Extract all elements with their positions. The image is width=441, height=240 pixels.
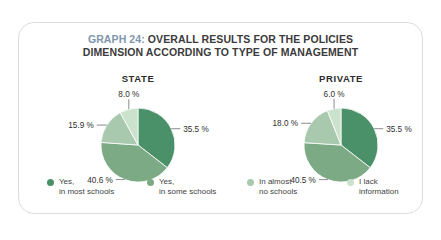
legend-item-label: In almost no schools	[259, 177, 297, 197]
legend-item-label: Yes, in some schools	[159, 177, 216, 197]
pie-slice-label: 18.0 %	[273, 119, 299, 128]
legend-item[interactable]: Yes, in some schools	[147, 177, 216, 197]
legend-color-dot-icon	[347, 179, 354, 186]
legend-item-label: Yes, in most schools	[59, 177, 114, 197]
legend-color-dot-icon	[147, 179, 154, 186]
legend-item[interactable]: In almost no schools	[247, 177, 297, 197]
legend-item[interactable]: I lack information	[347, 177, 399, 197]
pie-slice-label: 15.9 %	[68, 121, 94, 130]
pie-slice-label: 6.0 %	[324, 90, 345, 99]
title-line-2: DIMENSION ACCORDING TO TYPE OF MANAGEMEN…	[83, 46, 358, 58]
chart-title-private: PRIVATE	[240, 73, 441, 84]
graph-number: GRAPH 24:	[88, 33, 145, 45]
chart-title-state: STATE	[37, 73, 239, 84]
legend-color-dot-icon	[247, 179, 254, 186]
legend-item[interactable]: Yes, in most schools	[47, 177, 114, 197]
graph-card: GRAPH 24: OVERALL RESULTS FOR THE POLICI…	[18, 22, 423, 214]
legend-color-dot-icon	[47, 179, 54, 186]
pie-slice-label: 35.5 %	[183, 125, 209, 134]
pie-slice-label: 35.5 %	[386, 125, 412, 134]
page-title: GRAPH 24: OVERALL RESULTS FOR THE POLICI…	[56, 31, 386, 61]
chart-legend: Yes, in most schoolsYes, in some schools…	[47, 177, 427, 203]
legend-item-label: I lack information	[359, 177, 399, 197]
pie-slice-label: 8.0 %	[118, 90, 139, 99]
title-line-1: OVERALL RESULTS FOR THE POLICIES	[145, 33, 353, 45]
